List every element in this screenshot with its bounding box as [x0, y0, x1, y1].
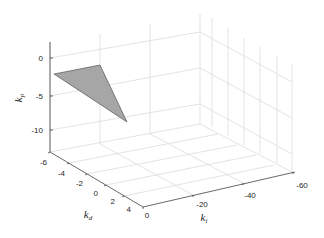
- plot-canvas: 0 -5 -10 kp -6 -4 -2 0 2 4 kd 0 -20 -40 …: [0, 0, 324, 238]
- kd-axis-label: kd: [84, 208, 93, 222]
- ki-axis: [143, 172, 295, 207]
- kd-tick-4: 2: [111, 197, 116, 206]
- 3d-plot: 0 -5 -10 kp -6 -4 -2 0 2 4 kd 0 -20 -40 …: [0, 0, 324, 238]
- kp-tick-1: -5: [36, 92, 44, 101]
- ki-tick-0: 0: [145, 211, 150, 220]
- grid-lines: [50, 14, 292, 196]
- ki-tick-2: -40: [244, 191, 256, 200]
- ki-tick-1: -20: [196, 200, 208, 209]
- kp-tick-2: -10: [31, 126, 43, 135]
- svg-text:kp: kp: [12, 93, 26, 102]
- kd-tick-0: -6: [40, 158, 48, 167]
- kd-tick-1: -4: [58, 169, 66, 178]
- kd-tick-2: -2: [76, 179, 84, 188]
- ki-tick-3: -60: [296, 181, 308, 190]
- kp-axis-label: kp: [12, 93, 26, 102]
- ki-axis-label: ki: [201, 211, 208, 225]
- kd-tick-3: 0: [94, 189, 99, 198]
- kp-tick-0: 0: [39, 54, 44, 63]
- axes: [48, 42, 295, 209]
- kd-tick-5: 4: [127, 205, 132, 214]
